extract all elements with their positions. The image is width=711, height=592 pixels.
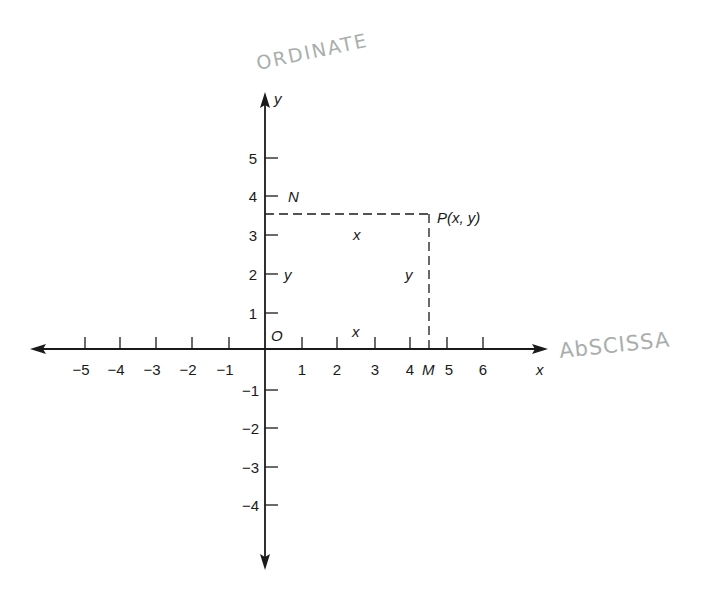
svg-text:−4: −4 (242, 497, 259, 514)
svg-text:3: 3 (371, 361, 379, 378)
coordinate-plane-diagram: ORDINATE AbSCISSA −5 (0, 0, 711, 592)
svg-text:4: 4 (249, 188, 257, 205)
svg-text:6: 6 (479, 361, 487, 378)
origin-label: O (271, 327, 283, 344)
point-n-label: N (288, 188, 299, 205)
x-axis-label: x (535, 361, 544, 378)
svg-text:2: 2 (249, 266, 257, 283)
svg-text:5: 5 (445, 361, 453, 378)
svg-text:2: 2 (333, 361, 341, 378)
svg-text:−3: −3 (242, 459, 259, 476)
svg-text:3: 3 (249, 227, 257, 244)
svg-text:−5: −5 (72, 361, 89, 378)
x-axis-ticks (85, 337, 483, 349)
top-x-label: x (352, 226, 361, 243)
svg-text:−1: −1 (242, 382, 259, 399)
svg-text:−4: −4 (107, 361, 124, 378)
point-p-label: P(x, y) (437, 209, 480, 226)
right-y-label: y (404, 266, 414, 283)
y-axis-label: y (273, 90, 283, 107)
svg-text:−2: −2 (179, 361, 196, 378)
y-tick-labels: 5 4 3 2 1 −1 −2 −3 −4 (242, 150, 259, 514)
ordinate-annotation: ORDINATE (254, 29, 370, 74)
svg-text:1: 1 (249, 305, 257, 322)
svg-text:−2: −2 (242, 420, 259, 437)
svg-text:1: 1 (298, 361, 306, 378)
svg-text:−1: −1 (216, 361, 233, 378)
point-m-label: M (422, 361, 435, 378)
svg-text:5: 5 (249, 150, 257, 167)
bottom-x-label: x (351, 323, 360, 340)
abscissa-annotation: AbSCISSA (558, 327, 671, 363)
svg-text:4: 4 (406, 361, 414, 378)
left-y-label: y (283, 266, 293, 283)
svg-text:−3: −3 (143, 361, 160, 378)
